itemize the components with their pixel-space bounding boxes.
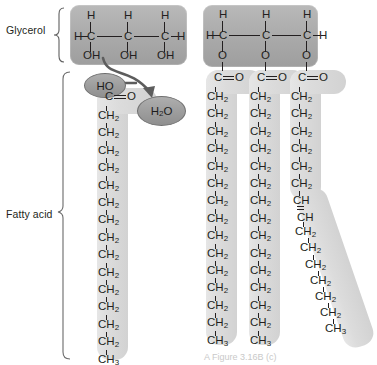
ester-chain-3-unit-4: CH2 [291, 161, 312, 173]
ester-chain-2-dbond-a [266, 76, 277, 77]
faa-unit-9: CH2 [98, 267, 119, 279]
ester-chain-1-unit-7: CH2 [207, 213, 228, 225]
faa-unit-13: CH2 [98, 336, 119, 348]
glycerol-right-h-top-2: H [262, 9, 270, 21]
ester-chain-2-unit-4: CH2 [250, 161, 271, 173]
glycerol-left-c-3: C [161, 31, 169, 43]
faa-carbonyl-dbond-b [114, 98, 126, 99]
water-sub: 2 [159, 109, 163, 118]
ester-chain-1-unit-12: CH2 [207, 300, 228, 312]
glycerol-left-c-2: C [124, 31, 132, 43]
faa-unit-2: CH2 [98, 145, 119, 157]
glycerol-right-terminal-h2: H [319, 30, 327, 42]
ester-chain-2-unit-9: CH2 [250, 248, 271, 260]
ester-chain-2-unit-2: CH2 [250, 126, 271, 138]
ester-chain-3-tail-unit-0: CH2 [295, 226, 316, 238]
ester-chain-3-kink-ch-2: CH [297, 212, 314, 224]
glycerol-left-h-top-1: H [87, 10, 95, 22]
glycerol-bracket [54, 8, 64, 62]
ester-chain-2-unit-1: CH2 [250, 108, 271, 120]
ester-chain-1-unit-3: CH2 [207, 143, 228, 155]
ester-chain-1-unit-10: CH2 [207, 265, 228, 277]
ester-chain-2-unit-13: CH2 [250, 317, 271, 329]
ester-chain-3-tail-unit-1: CH2 [300, 242, 321, 254]
ester-chain-1-terminal: CH3 [207, 335, 228, 347]
glycerol-left-h-top-2: H [124, 10, 132, 22]
glycerol-right-c-1: C [219, 30, 227, 42]
faa-unit-0: CH2 [98, 110, 119, 122]
ester-chain-3-unit-3: CH2 [291, 143, 312, 155]
ester-chain-1-unit-2: CH2 [207, 126, 228, 138]
ester-chain-3-tail-unit-3: CH2 [310, 275, 331, 287]
ester-chain-3-unit-5: CH2 [291, 178, 312, 190]
ester-chain-3-tail-unit-5: CH2 [320, 307, 341, 319]
ester-chain-2-unit-10: CH2 [250, 265, 271, 277]
fatty-acid-bracket [58, 72, 70, 359]
faa-carbonyl-dbond-a [114, 95, 126, 96]
ester-chain-2-carbonyl-oxygen: O [278, 72, 287, 84]
bond-gr-h-12 [229, 35, 260, 36]
ester-chain-1-unit-0: CH2 [207, 91, 228, 103]
ester-chain-1-carbonyl-oxygen: O [235, 72, 244, 84]
ester-chain-3-unit-0: CH2 [291, 91, 312, 103]
water-oval: H2O [137, 96, 186, 126]
faa-unit-8: CH2 [98, 249, 119, 261]
bond-gr-v1c [222, 62, 223, 71]
ester-chain-1-unit-11: CH2 [207, 282, 228, 294]
figure-caption: A Figure 3.16B (c) [204, 352, 277, 362]
ester-chain-1-dbond-a [223, 76, 234, 77]
ester-chain-2-terminal: CH3 [250, 335, 271, 347]
glycerol-right-h-top-3: H [303, 9, 311, 21]
ester-chain-1-unit-13: CH2 [207, 317, 228, 329]
glycerol-right-h-top-1: H [219, 9, 227, 21]
ester-chain-2-dbond-b [266, 79, 277, 80]
ester-chain-1-unit-4: CH2 [207, 161, 228, 173]
faa-carbonyl-oxygen: O [127, 91, 136, 103]
glycerol-left-oh-2: OH [120, 50, 137, 62]
ester-chain-1-unit-8: CH2 [207, 230, 228, 242]
bond-gr-h-23 [272, 35, 301, 36]
glycerol-left-h-top-3: H [161, 10, 169, 22]
bond-gr-v2c [265, 62, 266, 71]
glycerol-left-oh-3: OH [157, 50, 174, 62]
faa-unit-4: CH2 [98, 180, 119, 192]
faa-carbonyl-carbon: C [105, 91, 113, 103]
ester-chain-2-unit-8: CH2 [250, 230, 271, 242]
ester-chain-3-unit-2: CH2 [291, 126, 312, 138]
ester-chain-1-carbonyl-carbon: C [214, 72, 222, 84]
glycerol-right-o-1: O [218, 50, 227, 62]
ester-chain-2-unit-11: CH2 [250, 282, 271, 294]
ester-chain-2-unit-6: CH2 [250, 195, 271, 207]
bond-gr-v3c [306, 62, 307, 71]
glycerol-left-c-1: C [87, 31, 95, 43]
ester-chain-2-carbonyl-carbon: C [257, 72, 265, 84]
faa-unit-11: CH2 [98, 301, 119, 313]
faa-terminal: CH3 [98, 354, 119, 365]
water-h: H [151, 105, 159, 117]
ester-chain-3-carbonyl-oxygen: O [319, 72, 328, 84]
ester-chain-3-dbond-a [307, 76, 318, 77]
ester-chain-3-tail-unit-2: CH2 [305, 259, 326, 271]
ester-chain-1-unit-1: CH2 [207, 108, 228, 120]
ester-chain-2-unit-3: CH2 [250, 143, 271, 155]
ester-chain-3-tail-terminal: CH3 [325, 323, 346, 335]
glycerol-right-c-2: C [262, 30, 270, 42]
glycerol-left-oh-1: OH [83, 50, 100, 62]
ester-chain-3-kink-dbond-a [297, 206, 304, 207]
water-o: O [163, 105, 172, 117]
ester-chain-2-unit-5: CH2 [250, 178, 271, 190]
faa-unit-5: CH2 [98, 197, 119, 209]
glycerol-right-o-3: O [302, 50, 311, 62]
ester-chain-1-unit-6: CH2 [207, 195, 228, 207]
ester-chain-3-tail-unit-4: CH2 [315, 291, 336, 303]
ester-chain-3-unit-1: CH2 [291, 108, 312, 120]
ester-chain-3-dbond-b [307, 79, 318, 80]
ester-chain-1-unit-5: CH2 [207, 178, 228, 190]
ester-chain-2-unit-0: CH2 [250, 91, 271, 103]
glycerol-right-c-3: C [303, 30, 311, 42]
ester-chain-2-unit-7: CH2 [250, 213, 271, 225]
faa-unit-12: CH2 [98, 319, 119, 331]
ester-chain-1-dbond-b [223, 79, 234, 80]
bond-gl-h-12 [97, 36, 122, 37]
